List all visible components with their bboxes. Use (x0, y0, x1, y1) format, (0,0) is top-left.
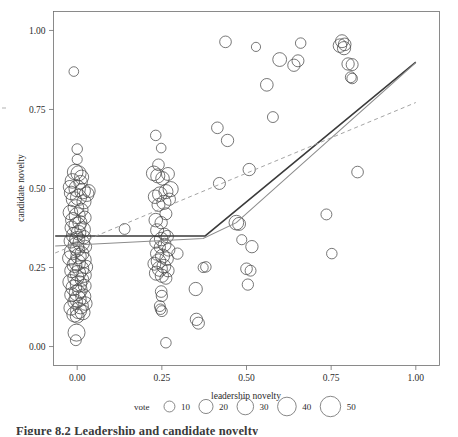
data-point (192, 317, 204, 329)
y-axis-title: candidate novelty (16, 154, 26, 222)
x-axis-title: leadership novelty (211, 391, 281, 401)
data-point (189, 282, 202, 295)
data-point (156, 172, 170, 186)
legend-title: vote (134, 402, 150, 412)
legend-size-label: 40 (302, 402, 312, 412)
x-tick-label: 0.25 (154, 373, 171, 383)
data-point (267, 112, 278, 123)
y-tick-labels: 0.000.250.500.751.00 (29, 26, 46, 352)
data-point (150, 130, 161, 141)
y-tick-label: 0.25 (29, 263, 46, 273)
data-point (212, 122, 224, 134)
data-point (119, 223, 130, 234)
figure-container: 0.000.250.500.751.00 0.000.250.500.751.0… (0, 0, 458, 437)
data-point (150, 236, 162, 248)
x-tick-label: 0.00 (69, 373, 86, 383)
data-point (242, 279, 253, 290)
y-axis-ticks (49, 30, 54, 346)
data-point (155, 216, 167, 228)
legend-size-label: 50 (347, 402, 357, 412)
legend-size-marker (278, 397, 297, 416)
data-point (342, 58, 354, 70)
data-point (245, 265, 256, 276)
x-axis-ticks (77, 366, 416, 371)
scatter-plot: 0.000.250.500.751.00 0.000.250.500.751.0… (0, 0, 458, 437)
data-point (152, 261, 167, 276)
x-tick-label: 0.75 (323, 373, 340, 383)
data-point (69, 67, 79, 77)
x-tick-label: 1.00 (407, 373, 424, 383)
data-point (152, 198, 165, 211)
legend-size-marker (320, 396, 340, 416)
x-tick-labels: 0.000.250.500.751.00 (69, 373, 424, 383)
data-point (72, 154, 82, 164)
trend-lines-layer (55, 62, 416, 253)
legend-size-label: 30 (260, 402, 270, 412)
data-point (160, 208, 172, 220)
data-point (161, 337, 172, 348)
data-point (221, 134, 233, 146)
y-tick-label: 1.00 (29, 26, 46, 36)
data-point (321, 209, 332, 220)
trend-line-linear-fit-dashed (55, 103, 416, 253)
data-point (327, 248, 338, 259)
data-point (156, 143, 166, 153)
data-point (72, 144, 83, 155)
data-point (251, 42, 260, 51)
data-point (237, 235, 247, 245)
y-tick-label: 0.75 (29, 105, 46, 115)
data-point (273, 53, 287, 67)
x-tick-label: 0.50 (238, 373, 255, 383)
y-tick-label: 0.00 (29, 342, 46, 352)
legend-size-label: 10 (181, 402, 191, 412)
y-tick-label: 0.50 (29, 184, 46, 194)
data-point (295, 38, 306, 49)
data-points-layer (63, 35, 364, 348)
data-point (220, 36, 232, 48)
data-point (352, 166, 364, 178)
trend-line-segmented-fit-dark (55, 62, 416, 236)
legend-size-marker (199, 399, 213, 413)
plot-frame (54, 12, 440, 366)
legend-size-marker (164, 401, 175, 412)
data-point (260, 79, 273, 92)
data-point (246, 240, 258, 252)
legend-size-label: 20 (219, 402, 229, 412)
data-point (213, 177, 225, 189)
data-point (241, 263, 253, 275)
